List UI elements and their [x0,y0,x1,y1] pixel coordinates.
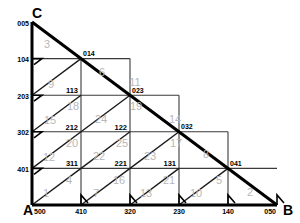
cell-number-10: 10 [190,187,202,199]
cell-number-21: 21 [163,174,175,186]
node-label-113: 113 [66,86,78,95]
cell-number-22: 22 [93,150,105,162]
node-label-221: 221 [114,159,127,168]
bottom-axis-tick-label-230: 230 [173,208,185,215]
vertex-label-a: A [23,202,33,218]
cell-number-6: 6 [99,66,105,78]
left-axis-tick-label-302: 302 [17,129,29,136]
cell-number-11: 11 [129,76,140,88]
ternary-diagram-svg: C A B 005 104 203 302 401 500 410 320 23… [0,0,300,223]
cell-number-25: 25 [116,137,128,149]
cell-number-5: 5 [216,174,222,186]
cell-number-1: 1 [43,187,49,199]
cell-number-18: 18 [67,100,79,112]
cell-number-17: 17 [170,137,182,149]
cell-number-19: 19 [130,100,142,112]
hypotenuse-label-041: 041 [230,160,242,167]
cell-number-7: 7 [93,187,99,199]
cell-number-8: 8 [203,148,209,160]
left-axis-tick-label-203: 203 [17,93,29,100]
hypotenuse-label-014: 014 [83,50,95,57]
bottom-axis-tick-label-320: 320 [124,208,136,215]
node-label-212: 212 [65,123,78,132]
node-label-122: 122 [114,123,127,132]
ternary-diagram-canvas: C A B 005 104 203 302 401 500 410 320 23… [0,0,300,223]
cell-number-23: 23 [144,150,156,162]
hypotenuse-label-032: 032 [181,123,193,130]
cell-number-15: 15 [44,114,56,126]
cell-number-13: 13 [140,187,152,199]
cell-number-14: 14 [169,113,181,125]
left-axis-tick-label-104: 104 [17,56,29,63]
bottom-axis-tick-label-410: 410 [75,208,87,215]
vertex-label-c: C [32,5,42,21]
vertex-label-b: B [283,202,293,218]
bottom-axis-tick-label-140: 140 [222,208,234,215]
node-label-311: 311 [66,159,78,168]
cell-number-4: 4 [66,174,72,186]
grid-diag-r5c1 [32,168,81,205]
left-axis-tick-label-005: 005 [17,20,29,27]
cell-number-3: 3 [44,38,50,50]
cell-number-12: 12 [43,151,55,163]
cell-number-9: 9 [48,78,54,90]
bottom-axis-tick-label-050: 050 [264,208,276,215]
cell-number-24: 24 [95,113,107,125]
left-axis-tick-label-401: 401 [17,166,29,173]
cell-number-20: 20 [66,137,78,149]
node-label-131: 131 [163,159,176,168]
bottom-axis-tick-label-500: 500 [34,208,46,215]
cell-number-16: 16 [113,174,125,186]
cell-number-2: 2 [247,186,253,198]
